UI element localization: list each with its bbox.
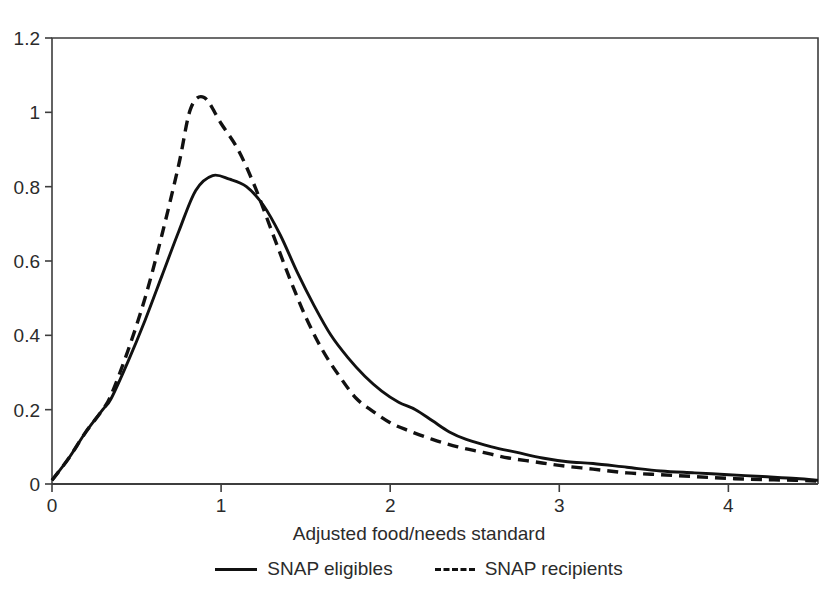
- figure-container: 00.20.40.60.811.201234 Adjusted food/nee…: [0, 0, 838, 596]
- x-axis-tick-label: 0: [47, 495, 58, 516]
- y-axis-tick-label: 0.2: [14, 400, 40, 421]
- x-axis-label: Adjusted food/needs standard: [0, 523, 838, 545]
- legend-item-snap-eligibles: SNAP eligibles: [215, 558, 392, 580]
- y-axis-tick-label: 0.4: [14, 325, 41, 346]
- legend-label-snap-eligibles: SNAP eligibles: [267, 558, 392, 580]
- chart-legend: SNAP eligibles SNAP recipients: [0, 558, 838, 580]
- x-axis-tick-label: 2: [385, 495, 396, 516]
- y-axis-tick-label: 0.6: [14, 251, 40, 272]
- x-axis-tick-label: 3: [554, 495, 565, 516]
- series-line-0: [52, 175, 818, 480]
- x-axis-tick-label: 1: [216, 495, 227, 516]
- y-axis-tick-label: 1: [29, 102, 40, 123]
- legend-swatch-dashed-icon: [435, 568, 475, 571]
- legend-swatch-solid-icon: [215, 568, 257, 571]
- plot-area: 00.20.40.60.811.201234: [0, 0, 838, 520]
- x-axis-tick-label: 4: [723, 495, 734, 516]
- legend-item-snap-recipients: SNAP recipients: [435, 558, 623, 580]
- y-axis-tick-label: 1.2: [14, 28, 40, 49]
- legend-label-snap-recipients: SNAP recipients: [485, 558, 623, 580]
- y-axis-tick-label: 0: [29, 474, 40, 495]
- y-axis-tick-label: 0.8: [14, 177, 40, 198]
